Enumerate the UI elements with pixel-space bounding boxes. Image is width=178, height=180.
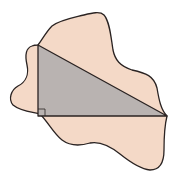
diagram-canvas: [0, 0, 178, 180]
diagram: [0, 0, 178, 180]
